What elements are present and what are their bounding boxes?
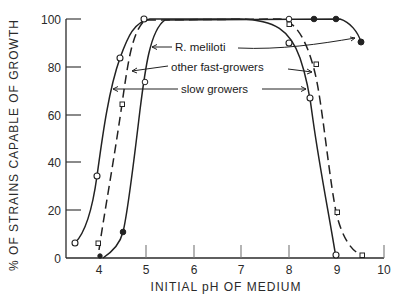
legend-r-meliloti: R. meliloti xyxy=(175,41,225,53)
fast-growers-curve xyxy=(99,19,362,255)
x-tick-labels: 4 5 6 7 8 9 10 xyxy=(96,263,391,277)
legend-slow-growers: slow growers xyxy=(181,83,248,95)
x-tick-4: 4 xyxy=(96,263,103,277)
y-tick-60: 60 xyxy=(48,109,62,123)
x-ticks xyxy=(146,245,384,258)
axes xyxy=(66,19,384,258)
x-tick-8: 8 xyxy=(286,263,293,277)
x-tick-9: 9 xyxy=(334,263,341,277)
x-tick-7: 7 xyxy=(238,263,245,277)
x-tick-10: 10 xyxy=(377,263,391,277)
y-tick-labels: 0 20 40 60 80 100 xyxy=(41,13,61,266)
r-meliloti-markers xyxy=(98,16,364,258)
y-tick-0: 0 xyxy=(54,252,61,266)
y-ticks xyxy=(66,19,81,210)
x-tick-6: 6 xyxy=(191,263,198,277)
slow-growers-curve xyxy=(75,19,336,258)
annotation-labels: R. meliloti other fast-growers slow grow… xyxy=(171,41,264,95)
y-tick-20: 20 xyxy=(48,204,62,218)
r-meliloti-curve xyxy=(103,19,361,258)
x-axis-label: INITIAL pH OF MEDIUM xyxy=(0,280,402,294)
y-tick-100: 100 xyxy=(41,13,61,27)
legend-other-fast-growers: other fast-growers xyxy=(171,61,264,73)
x-tick-5: 5 xyxy=(143,263,150,277)
y-tick-40: 40 xyxy=(48,156,62,170)
ph-growth-chart: 0 20 40 60 80 100 4 5 6 7 8 9 10 xyxy=(0,0,402,304)
y-tick-80: 80 xyxy=(48,61,62,75)
